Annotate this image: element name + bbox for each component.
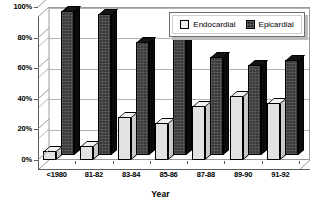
bar-epicardial-4 [210,57,223,155]
bar-side-face [111,9,117,155]
y-tick-depth-connector [38,0,50,8]
legend-label-endocardial: Endocardial [193,20,235,29]
bar-endocardial-5 [230,96,243,160]
bar-epicardial-2 [136,42,149,155]
x-tick-mark [75,161,76,164]
y-tick-label-100: 100% [14,3,32,11]
x-tick-label-6: 91-92 [250,171,310,179]
legend-swatch-epicardial [246,20,255,29]
legend-inner: Endocardial Epicardial [172,15,302,34]
chart-legend: Endocardial Epicardial [169,12,305,37]
x-tick-mark [113,161,114,164]
bar-endocardial-6 [267,103,280,160]
bar-front-face [285,60,298,155]
bar-epicardial-6 [285,60,298,155]
legend-item-endocardial: Endocardial [180,20,235,29]
bar-front-face [192,106,205,160]
y-tick-label-60: 60% [18,64,32,72]
x-tick-mark [224,161,225,164]
x-tick-mark [187,161,188,164]
bar-side-face [205,101,211,160]
bar-side-face [74,6,80,155]
y-tick-label-40: 40% [18,95,32,103]
bar-front-face [80,146,93,160]
bar-side-face [131,112,137,160]
x-tick-mark [262,161,263,164]
bar-side-face [186,31,192,155]
bar-front-face [61,11,74,155]
bar-front-face [173,36,186,155]
legend-swatch-endocardial [180,20,189,29]
y-tick-label-0: 0% [22,156,32,164]
gridline-100 [49,8,309,9]
legend-item-epicardial: Epicardial [246,20,294,29]
bar-epicardial-0 [61,11,74,155]
bar-side-face [280,98,286,160]
y-tick-label-20: 20% [18,125,32,133]
bar-chart: 0%20%40%60%80%100% <198081-8283-8485-868… [0,0,321,206]
x-tick-mark [299,161,300,164]
bar-front-face [98,14,111,155]
bar-front-face [267,103,280,160]
bar-endocardial-4 [192,106,205,160]
bar-front-face [248,65,261,155]
bar-epicardial-3 [173,36,186,155]
y-tick-depth-connector [38,150,50,161]
legend-label-epicardial: Epicardial [259,20,294,29]
bar-side-face [243,91,249,160]
bar-front-face [155,123,168,160]
bar-endocardial-2 [118,117,131,160]
bar-front-face [136,42,149,155]
bar-endocardial-1 [80,146,93,160]
y-tick-label-80: 80% [18,34,32,42]
bar-epicardial-5 [248,65,261,155]
bar-side-face [298,55,304,155]
bar-side-face [168,118,174,160]
y-tick-depth-connector [38,28,50,39]
bar-side-face [149,37,155,155]
bar-endocardial-3 [155,123,168,160]
bar-epicardial-1 [98,14,111,155]
y-tick-depth-connector [38,119,50,130]
bar-front-face [118,117,131,160]
y-tick-depth-connector [38,89,50,100]
bar-side-face [261,60,267,155]
bar-side-face [223,52,229,155]
x-axis-title: Year [0,189,321,199]
y-tick-depth-connector [38,58,50,69]
x-tick-mark [150,161,151,164]
bar-front-face [230,96,243,160]
bar-front-face [210,57,223,155]
